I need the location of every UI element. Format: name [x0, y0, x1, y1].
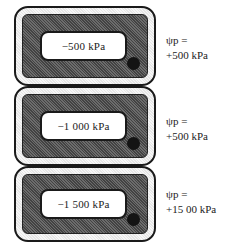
cytoplasm: −500 kPa — [22, 14, 148, 78]
psi-symbol-label: ψp = — [166, 187, 216, 202]
nucleus-icon — [127, 213, 140, 226]
psi-value: +15 00 kPa — [166, 202, 216, 217]
cell-bottom: −1 500 kPa — [14, 166, 156, 242]
vacuole-pressure-label: −1 500 kPa — [57, 198, 109, 210]
cytoplasm: −1 000 kPa — [22, 94, 148, 158]
nucleus-icon — [127, 57, 140, 70]
vacuole: −500 kPa — [40, 31, 127, 61]
psi-value: +500 kPa — [166, 129, 208, 144]
cell-top: −500 kPa — [14, 6, 156, 86]
cell-middle: −1 000 kPa — [14, 86, 156, 166]
cytoplasm: −1 500 kPa — [22, 174, 148, 234]
plant-cell-diagram: −500 kPa ψp = +500 kPa −1 000 kPa ψp = +… — [0, 0, 233, 250]
vacuole-pressure-label: −1 000 kPa — [57, 120, 109, 132]
turgor-label-middle: ψp = +500 kPa — [166, 114, 208, 144]
nucleus-icon — [127, 137, 140, 150]
turgor-label-bottom: ψp = +15 00 kPa — [166, 187, 216, 217]
turgor-label-top: ψp = +500 kPa — [166, 33, 208, 63]
psi-value: +500 kPa — [166, 48, 208, 63]
vacuole: −1 000 kPa — [40, 111, 127, 141]
vacuole: −1 500 kPa — [40, 189, 127, 219]
psi-symbol-label: ψp = — [166, 114, 208, 129]
psi-symbol-label: ψp = — [166, 33, 208, 48]
vacuole-pressure-label: −500 kPa — [62, 40, 106, 52]
